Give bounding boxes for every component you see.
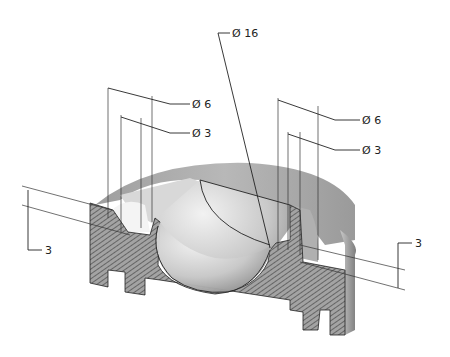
dim-dia6-left-label: Ø 6 [192, 98, 211, 111]
dim-depth-right-label: 3 [415, 237, 422, 250]
technical-drawing: Ø 16 Ø 6 Ø 3 Ø 6 Ø 3 3 3 [0, 0, 450, 357]
dim-depth-left-label: 3 [45, 244, 52, 257]
dim-dia16-label: Ø 16 [232, 27, 258, 40]
dim-dia6-right-label: Ø 6 [362, 114, 381, 127]
dim-dia3-left-label: Ø 3 [192, 127, 211, 140]
dim-dia3-right-label: Ø 3 [362, 144, 381, 157]
